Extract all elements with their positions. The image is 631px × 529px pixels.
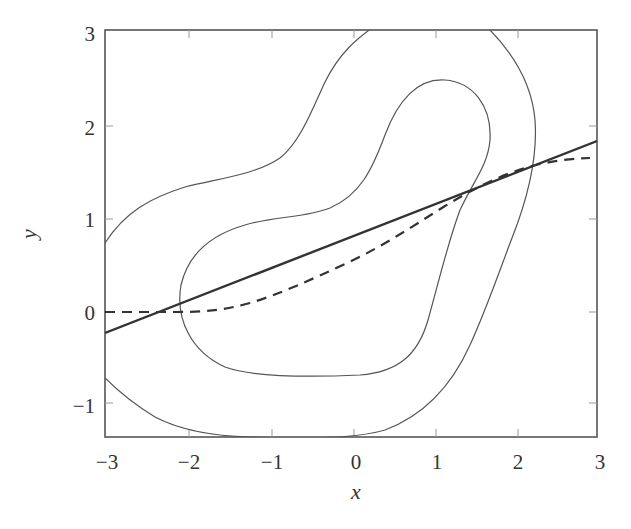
solid-line <box>105 141 597 333</box>
svg-text:3: 3 <box>595 450 606 474</box>
svg-text:2: 2 <box>85 116 96 140</box>
svg-text:1: 1 <box>432 450 443 474</box>
svg-text:3: 3 <box>85 22 96 46</box>
x-ticks <box>189 30 518 437</box>
dashed-curve <box>105 158 590 312</box>
svg-text:0: 0 <box>85 301 96 325</box>
svg-text:1: 1 <box>85 208 96 232</box>
y-tick-labels: −1 0 1 2 3 <box>73 22 95 418</box>
x-axis-label: x <box>350 479 361 504</box>
svg-text:0: 0 <box>351 450 362 474</box>
y-axis-label: y <box>16 229 41 241</box>
x-tick-labels: −3 −2 −1 0 1 2 3 <box>96 450 605 474</box>
svg-text:−1: −1 <box>261 450 283 474</box>
svg-text:−2: −2 <box>178 450 200 474</box>
svg-text:2: 2 <box>513 450 524 474</box>
contour-chart: −3 −2 −1 0 1 2 3 −1 0 1 2 3 x y <box>0 0 631 529</box>
svg-text:−3: −3 <box>96 450 118 474</box>
inner-contour <box>180 80 490 376</box>
svg-text:−1: −1 <box>73 394 95 418</box>
